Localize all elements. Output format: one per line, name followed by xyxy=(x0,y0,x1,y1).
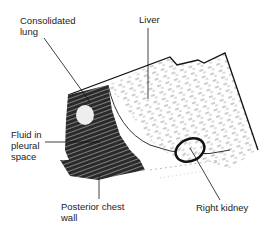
label-posterior-chest-wall: Posterior chest wall xyxy=(61,201,124,223)
leader-consolidated-lung xyxy=(44,38,90,102)
anatomy-figure: Consolidated lung Liver Fluid in pleural… xyxy=(0,0,268,235)
label-liver: Liver xyxy=(139,14,160,25)
label-fluid-pleural-space: Fluid in pleural space xyxy=(11,129,42,162)
label-right-kidney: Right kidney xyxy=(196,202,248,213)
label-consolidated-lung: Consolidated lung xyxy=(20,15,75,37)
